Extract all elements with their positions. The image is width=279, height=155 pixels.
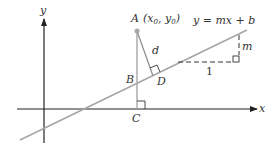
label-A-coords: (x0, y0) [143, 12, 180, 26]
line-equation-label: y = mx + b [192, 14, 255, 27]
point-A [135, 29, 140, 34]
x-axis-label: x [259, 102, 266, 115]
label-D: D [156, 75, 166, 88]
point-to-line-distance-diagram: x y y = mx + b A (x0, y0) d B D C 1 m [0, 0, 279, 155]
label-A: A [130, 12, 139, 25]
right-angle-mark-slope [233, 56, 239, 62]
segment-AD [137, 31, 153, 76]
label-run-1: 1 [206, 65, 213, 78]
y-axis-label: y [39, 4, 47, 17]
right-angle-mark-C [137, 101, 145, 109]
label-rise-m: m [242, 40, 252, 53]
label-B: B [125, 73, 134, 86]
label-C: C [132, 112, 141, 125]
label-d: d [152, 44, 159, 57]
